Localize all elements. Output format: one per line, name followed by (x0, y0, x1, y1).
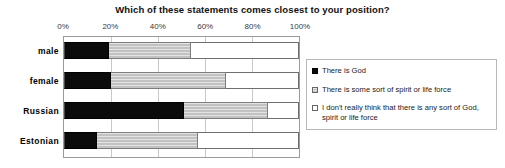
x-axis-tick-labels: 0%20%40%60%80%100% (63, 22, 300, 34)
category-label-male: male (0, 46, 59, 56)
legend-swatch-icon (312, 68, 318, 74)
plot-area (63, 36, 300, 158)
x-tick-label: 100% (290, 22, 310, 31)
category-label-estonian: Estonian (0, 136, 59, 146)
bar-segment (184, 102, 269, 119)
category-label-russian: Russian (0, 106, 59, 116)
stacked-bar (64, 42, 299, 59)
bar-segment (226, 72, 299, 89)
bar-segment (191, 42, 299, 59)
stacked-bar-chart: Which of these statements comes closest … (0, 0, 505, 168)
bar-segment (64, 42, 109, 59)
bar-row (64, 127, 299, 157)
bar-row (64, 97, 299, 127)
bar-segment (268, 102, 299, 119)
bar-segment (198, 132, 299, 149)
bar-segment (109, 42, 191, 59)
legend-label: I don't really think that there is any s… (322, 103, 492, 122)
bar-segment (64, 132, 97, 149)
bar-row (64, 67, 299, 97)
chart-legend: There is GodThere is some sort of spirit… (306, 59, 497, 130)
x-tick-label: 0% (57, 22, 69, 31)
y-axis-category-labels: malefemaleRussianEstonian (0, 36, 59, 158)
legend-swatch-icon (312, 105, 318, 111)
legend-item[interactable]: There is some sort of spirit or life for… (312, 85, 492, 95)
bar-segment (97, 132, 198, 149)
legend-label: There is some sort of spirit or life for… (322, 85, 451, 95)
x-tick-label: 20% (102, 22, 118, 31)
stacked-bar (64, 102, 299, 119)
x-tick-label: 80% (245, 22, 261, 31)
bar-row (64, 37, 299, 67)
legend-swatch-icon (312, 87, 318, 93)
legend-item[interactable]: There is God (312, 66, 492, 76)
legend-item[interactable]: I don't really think that there is any s… (312, 103, 492, 122)
x-tick-label: 60% (197, 22, 213, 31)
bar-segment (111, 72, 226, 89)
bar-segment (64, 72, 111, 89)
stacked-bar (64, 132, 299, 149)
category-label-female: female (0, 76, 59, 86)
chart-title: Which of these statements comes closest … (0, 4, 505, 15)
bar-segment (64, 102, 184, 119)
legend-label: There is God (322, 66, 366, 76)
x-tick-label: 40% (150, 22, 166, 31)
stacked-bar (64, 72, 299, 89)
